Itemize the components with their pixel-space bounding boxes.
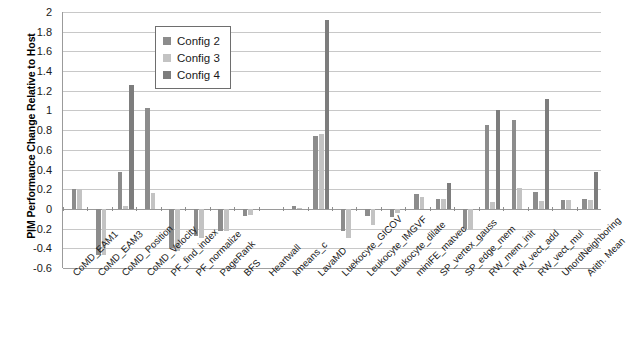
x-tickmark — [136, 207, 137, 211]
x-tickmark — [259, 207, 260, 211]
y-tick-label: 0 — [46, 204, 52, 215]
bar — [512, 120, 517, 209]
x-tickmark — [430, 207, 431, 211]
bar — [566, 200, 571, 209]
legend-swatch-icon — [163, 37, 171, 45]
bar — [441, 199, 446, 209]
x-tickmark — [185, 207, 186, 211]
x-tickmark — [161, 207, 162, 211]
y-tick-label: 2 — [46, 7, 52, 18]
bar — [319, 134, 324, 209]
y-tick-label: -0.2 — [33, 224, 52, 235]
y-tick-label: 0.6 — [37, 145, 52, 156]
bar — [243, 209, 248, 216]
bar-group — [308, 12, 332, 268]
y-tick-label: 1 — [46, 105, 52, 116]
bar — [447, 183, 452, 209]
bar — [325, 20, 330, 209]
legend-item: Config 3 — [163, 49, 220, 66]
legend-label: Config 2 — [177, 35, 220, 47]
x-tickmark — [87, 207, 88, 211]
bar — [72, 189, 77, 209]
bar — [77, 189, 82, 209]
x-tickmark — [283, 207, 284, 211]
bar — [594, 172, 599, 208]
bar — [123, 206, 128, 209]
legend-label: Config 4 — [177, 69, 220, 81]
legend: Config 2Config 3Config 4 — [155, 26, 231, 89]
bar — [346, 209, 351, 239]
bar — [151, 193, 156, 209]
bar — [588, 200, 593, 209]
bar-group — [356, 12, 380, 268]
bar-group — [259, 12, 283, 268]
bar-group — [63, 12, 87, 268]
legend-item: Config 4 — [163, 66, 220, 83]
bar — [224, 209, 229, 231]
bar — [436, 199, 441, 209]
bar — [485, 125, 490, 209]
x-axis-tick-labels: CoMD_EAM1CoMD_EAM3CoMD_PositionCoMD_Velo… — [62, 268, 600, 353]
y-tick-label: 1.2 — [37, 86, 52, 97]
bar-group — [283, 12, 307, 268]
legend-swatch-icon — [163, 71, 171, 79]
x-tickmark — [479, 207, 480, 211]
bar — [496, 110, 501, 208]
y-tick-label: 0.8 — [37, 125, 52, 136]
x-tickmark — [112, 207, 113, 211]
bar-group — [87, 12, 111, 268]
bar — [582, 199, 587, 209]
y-tick-label: 1.4 — [37, 66, 52, 77]
y-tick-label: 1.6 — [37, 46, 52, 57]
x-tickmark — [356, 207, 357, 211]
y-tick-label: 1.8 — [37, 27, 52, 38]
legend-label: Config 3 — [177, 52, 220, 64]
x-tickmark — [503, 207, 504, 211]
x-tickmark — [577, 207, 578, 211]
bar-group — [112, 12, 136, 268]
bar — [365, 209, 370, 216]
bar — [129, 85, 134, 209]
bar — [118, 172, 123, 209]
y-tick-label: 0.2 — [37, 184, 52, 195]
x-tickmark — [454, 207, 455, 211]
bar — [533, 192, 538, 209]
bar — [517, 188, 522, 209]
y-axis-tick-labels: 21.81.61.41.210.80.60.40.20-0.2-0.4-0.6 — [0, 0, 58, 353]
bar-group — [332, 12, 356, 268]
bar — [145, 108, 150, 208]
x-tickmark — [552, 207, 553, 211]
x-tickmark — [308, 207, 309, 211]
bar — [297, 208, 302, 209]
plot-area — [62, 12, 601, 268]
bar — [545, 99, 550, 209]
x-tickmark — [332, 207, 333, 211]
y-tick-label: -0.4 — [33, 243, 52, 254]
bar — [313, 136, 318, 209]
bar — [420, 197, 425, 209]
legend-swatch-icon — [163, 54, 171, 62]
x-tickmark — [210, 207, 211, 211]
bar — [292, 206, 297, 209]
x-tickmark — [405, 207, 406, 211]
bars-layer — [63, 12, 601, 268]
bar — [248, 209, 253, 215]
bar — [218, 209, 223, 231]
bar — [539, 201, 544, 209]
x-tickmark — [528, 207, 529, 211]
x-tickmark — [381, 207, 382, 211]
bar — [371, 209, 376, 225]
y-tick-label: -0.6 — [33, 263, 52, 274]
bar — [561, 200, 566, 209]
bar — [341, 209, 346, 231]
bar — [490, 202, 495, 209]
y-tick-label: 0.4 — [37, 165, 52, 176]
bar — [414, 194, 419, 209]
x-tickmark — [63, 207, 64, 211]
x-tickmark — [234, 207, 235, 211]
legend-item: Config 2 — [163, 32, 220, 49]
bar — [468, 209, 473, 230]
